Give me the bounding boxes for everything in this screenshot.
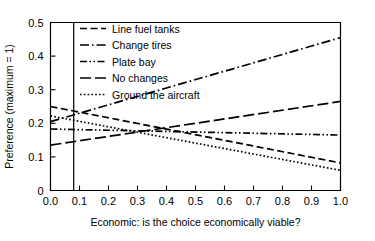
x-axis-ticks: 0.00.10.20.30.40.50.60.70.80.91.0 bbox=[43, 186, 348, 207]
x-tick-label: 0.8 bbox=[275, 195, 290, 207]
chart-legend: Line fuel tanksChange tiresPlate bayNo c… bbox=[80, 23, 200, 101]
y-tick-label: 0.2 bbox=[28, 117, 43, 129]
series-line bbox=[51, 116, 341, 170]
series-line bbox=[51, 38, 341, 122]
legend-item-label: No changes bbox=[112, 72, 168, 84]
y-tick-label: 0.3 bbox=[28, 84, 43, 96]
y-tick-label: 0 bbox=[37, 185, 43, 197]
legend-item-label: Line fuel tanks bbox=[112, 23, 180, 35]
chart-figure: 0.00.10.20.30.40.50.60.70.80.91.0 00.10.… bbox=[0, 0, 375, 241]
series-lines bbox=[51, 38, 341, 171]
x-tick-label: 0.7 bbox=[246, 195, 261, 207]
x-tick-label: 0.0 bbox=[43, 195, 58, 207]
y-tick-label: 0.1 bbox=[28, 151, 43, 163]
x-tick-label: 0.9 bbox=[304, 195, 319, 207]
x-tick-label: 0.4 bbox=[159, 195, 174, 207]
y-tick-label: 0.5 bbox=[28, 17, 43, 29]
y-axis-title: Preference (maximum = 1) bbox=[3, 44, 15, 169]
y-tick-label: 0.4 bbox=[28, 50, 43, 62]
series-line bbox=[51, 101, 341, 145]
chart-canvas: 0.00.10.20.30.40.50.60.70.80.91.0 00.10.… bbox=[0, 0, 375, 241]
legend-item-label: Ground the aircraft bbox=[112, 89, 200, 101]
x-tick-label: 0.3 bbox=[130, 195, 145, 207]
legend-item-label: Plate bay bbox=[112, 56, 157, 68]
x-tick-label: 0.1 bbox=[72, 195, 87, 207]
plot-frame bbox=[51, 23, 341, 191]
x-tick-label: 0.6 bbox=[217, 195, 232, 207]
plot-box bbox=[51, 23, 341, 191]
legend-item-label: Change tires bbox=[112, 39, 172, 51]
x-axis-title: Economic: is the choice economically via… bbox=[90, 216, 300, 228]
x-tick-label: 0.5 bbox=[188, 195, 203, 207]
x-tick-label: 1.0 bbox=[333, 195, 348, 207]
x-tick-label: 0.2 bbox=[101, 195, 116, 207]
